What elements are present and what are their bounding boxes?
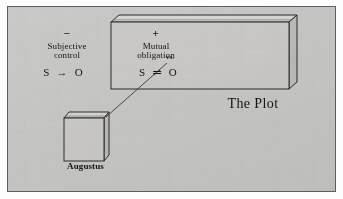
augustus-box-front-face: [64, 118, 104, 161]
augustus-caption: Augustus: [58, 162, 113, 171]
column-heading-mutual-obligation: Mutual obligation: [113, 42, 199, 61]
plot-column-negative: − Subjective control: [24, 28, 110, 60]
plot-box-top-face: [111, 15, 297, 22]
plot-box-right-face: [289, 15, 297, 89]
column-sign-positive: +: [113, 28, 199, 40]
column-formula-mutual-obligation: S ⇌ O: [116, 67, 202, 79]
versus-label: vs.: [163, 54, 177, 61]
plot-column-positive: + Mutual obligation: [113, 28, 199, 60]
column-heading-subjective-control: Subjective control: [24, 42, 110, 61]
heading-line-2: control: [24, 51, 110, 60]
figure-frame: − Subjective control S → O + Mutual obli…: [7, 6, 336, 192]
figure-root: − Subjective control S → O + Mutual obli…: [0, 0, 343, 199]
heading-line-2: obligation: [113, 51, 199, 60]
augustus-box-3d[interactable]: [64, 112, 109, 161]
plot-caption: The Plot: [213, 97, 293, 112]
augustus-box-top-face: [64, 112, 109, 118]
column-sign-negative: −: [24, 28, 110, 40]
column-formula-subjective-control: S → O: [21, 67, 107, 79]
augustus-box-right-face: [104, 112, 109, 161]
